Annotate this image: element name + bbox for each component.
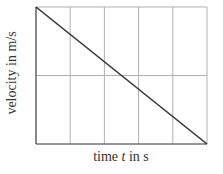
velocity-time-chart <box>0 0 223 174</box>
y-axis-label: velocity in m/s <box>4 31 20 114</box>
x-axis-label-suffix: in s <box>125 149 148 164</box>
x-axis-label: time t in s <box>93 149 149 165</box>
x-axis-label-prefix: time <box>93 149 121 164</box>
